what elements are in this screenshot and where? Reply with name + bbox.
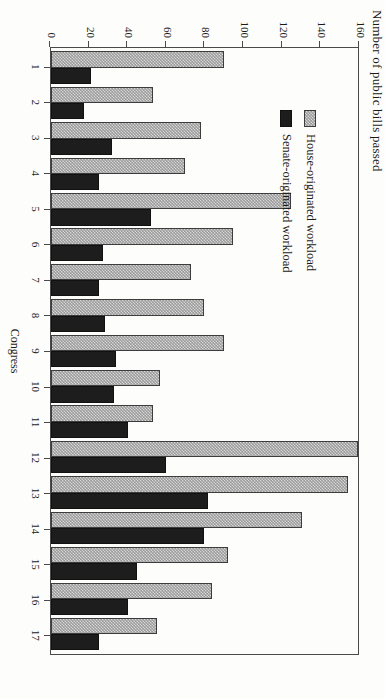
category-tick-label: 1 bbox=[30, 49, 42, 85]
category-tick bbox=[44, 387, 50, 388]
bar-house-11 bbox=[51, 405, 153, 421]
bar-group bbox=[51, 369, 358, 404]
category-tick-label: 11 bbox=[30, 404, 42, 440]
bar-house-2 bbox=[51, 87, 153, 103]
bar-senate-1 bbox=[51, 68, 91, 84]
category-axis-title: Congress bbox=[7, 47, 22, 655]
value-tick-label: 60 bbox=[162, 4, 174, 38]
bar-group bbox=[51, 333, 358, 368]
value-tick-label: 120 bbox=[278, 4, 290, 38]
value-tick-label: 40 bbox=[123, 4, 135, 38]
value-tick-label: 160 bbox=[355, 4, 367, 38]
legend-item: Senate-originated workload bbox=[279, 110, 294, 273]
bar-house-8 bbox=[51, 299, 205, 315]
category-tick-label: 2 bbox=[30, 85, 42, 121]
category-tick-label: 5 bbox=[30, 191, 42, 227]
category-tick-label: 3 bbox=[30, 120, 42, 156]
bar-house-6 bbox=[51, 228, 233, 244]
legend-item: House-originated workload bbox=[303, 110, 318, 273]
value-tick-label: 0 bbox=[46, 4, 58, 38]
bar-senate-5 bbox=[51, 209, 151, 225]
category-tick bbox=[44, 422, 50, 423]
value-tick-label: 20 bbox=[85, 4, 97, 38]
category-tick bbox=[44, 458, 50, 459]
bar-group bbox=[51, 50, 358, 85]
bar-house-16 bbox=[51, 583, 212, 599]
category-tick-label: 17 bbox=[30, 618, 42, 654]
bar-house-5 bbox=[51, 193, 291, 209]
category-tick bbox=[44, 102, 50, 103]
bar-house-10 bbox=[51, 370, 160, 386]
bar-senate-6 bbox=[51, 245, 103, 261]
bar-group bbox=[51, 298, 358, 333]
category-axis: 1234567891011121314151617 Congress bbox=[0, 47, 50, 655]
legend: House-originated workloadSenate-originat… bbox=[270, 110, 318, 273]
legend-swatch-senate bbox=[281, 110, 293, 127]
bar-senate-11 bbox=[51, 422, 128, 438]
bar-house-17 bbox=[51, 618, 157, 634]
bar-house-13 bbox=[51, 476, 348, 492]
bar-house-7 bbox=[51, 264, 191, 280]
bar-group bbox=[51, 404, 358, 439]
bar-group bbox=[51, 475, 358, 510]
value-tick-label: 100 bbox=[239, 4, 251, 38]
value-axis-title: Number of public bills passed bbox=[369, 10, 385, 699]
bar-house-4 bbox=[51, 158, 185, 174]
category-tick-label: 12 bbox=[30, 440, 42, 476]
bar-group bbox=[51, 510, 358, 545]
value-tick-label: 140 bbox=[316, 4, 328, 38]
bar-senate-12 bbox=[51, 457, 166, 473]
category-tick bbox=[44, 209, 50, 210]
bar-house-9 bbox=[51, 335, 224, 351]
category-tick-label: 7 bbox=[30, 262, 42, 298]
category-tick bbox=[44, 635, 50, 636]
category-tick bbox=[44, 351, 50, 352]
category-tick-label: 16 bbox=[30, 582, 42, 618]
bar-senate-7 bbox=[51, 280, 99, 296]
category-tick-label: 8 bbox=[30, 298, 42, 334]
bar-house-3 bbox=[51, 122, 201, 138]
bar-senate-9 bbox=[51, 351, 116, 367]
category-tick-label: 9 bbox=[30, 333, 42, 369]
category-tick bbox=[44, 493, 50, 494]
chart-page: Number of public bills passed 1601401201… bbox=[0, 0, 385, 699]
value-axis: 160140120100806040200 bbox=[50, 0, 359, 47]
bar-group bbox=[51, 617, 358, 652]
bar-group bbox=[51, 439, 358, 474]
bar-senate-2 bbox=[51, 103, 84, 119]
category-tick-label: 15 bbox=[30, 546, 42, 582]
category-tick-label: 4 bbox=[30, 156, 42, 192]
rotated-figure-wrapper: Number of public bills passed 1601401201… bbox=[0, 0, 385, 699]
category-tick bbox=[44, 138, 50, 139]
bar-group bbox=[51, 546, 358, 581]
category-tick-label: 14 bbox=[30, 511, 42, 547]
category-tick bbox=[44, 244, 50, 245]
category-tick bbox=[44, 173, 50, 174]
bar-house-1 bbox=[51, 51, 224, 67]
category-tick-label: 6 bbox=[30, 227, 42, 263]
legend-swatch-house bbox=[305, 110, 317, 127]
category-tick-label: 10 bbox=[30, 369, 42, 405]
category-tick bbox=[44, 600, 50, 601]
bar-senate-10 bbox=[51, 386, 114, 402]
bar-senate-4 bbox=[51, 174, 99, 190]
legend-label: Senate-originated workload bbox=[279, 134, 294, 273]
category-tick-label: 13 bbox=[30, 475, 42, 511]
bar-senate-14 bbox=[51, 528, 205, 544]
bar-house-15 bbox=[51, 547, 228, 563]
legend-label: House-originated workload bbox=[303, 134, 318, 271]
category-tick bbox=[44, 315, 50, 316]
bar-house-12 bbox=[51, 441, 358, 457]
figure: Number of public bills passed 1601401201… bbox=[0, 0, 385, 699]
category-tick bbox=[44, 529, 50, 530]
bar-senate-3 bbox=[51, 139, 112, 155]
value-tick-label: 80 bbox=[201, 4, 213, 38]
category-tick bbox=[44, 280, 50, 281]
bar-group bbox=[51, 581, 358, 616]
category-tick bbox=[44, 67, 50, 68]
category-tick bbox=[44, 564, 50, 565]
bar-house-14 bbox=[51, 512, 302, 528]
bar-senate-13 bbox=[51, 493, 208, 509]
bar-senate-15 bbox=[51, 563, 137, 579]
bar-senate-17 bbox=[51, 634, 99, 650]
